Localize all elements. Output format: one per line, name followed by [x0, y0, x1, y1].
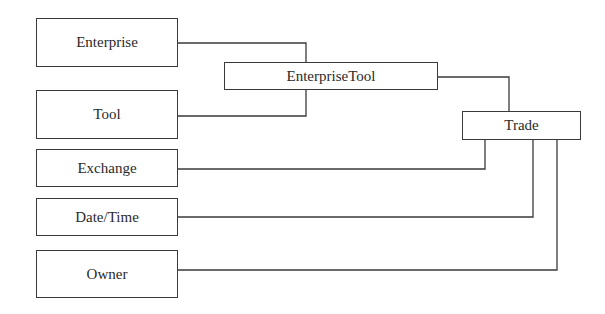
node-trade: Trade	[462, 111, 581, 140]
node-enterprise: Enterprise	[36, 18, 178, 67]
node-enterprisetool: EnterpriseTool	[224, 62, 438, 90]
edge-enterprise-enterprisetool	[178, 43, 306, 62]
node-label: EnterpriseTool	[287, 68, 376, 85]
node-label: Enterprise	[76, 34, 138, 51]
node-label: Exchange	[77, 160, 136, 177]
node-label: Owner	[87, 266, 128, 283]
edge-enterprisetool-trade	[438, 77, 509, 111]
node-datetime: Date/Time	[36, 198, 178, 236]
edge-exchange-trade	[178, 140, 485, 169]
node-label: Date/Time	[75, 209, 139, 226]
node-label: Trade	[504, 117, 538, 134]
node-owner: Owner	[36, 250, 178, 298]
edge-tool-enterprisetool	[178, 90, 306, 116]
node-tool: Tool	[36, 90, 178, 139]
node-exchange: Exchange	[36, 149, 178, 187]
edge-datetime-trade	[178, 140, 533, 217]
edge-owner-trade	[178, 140, 557, 270]
node-label: Tool	[93, 106, 120, 123]
